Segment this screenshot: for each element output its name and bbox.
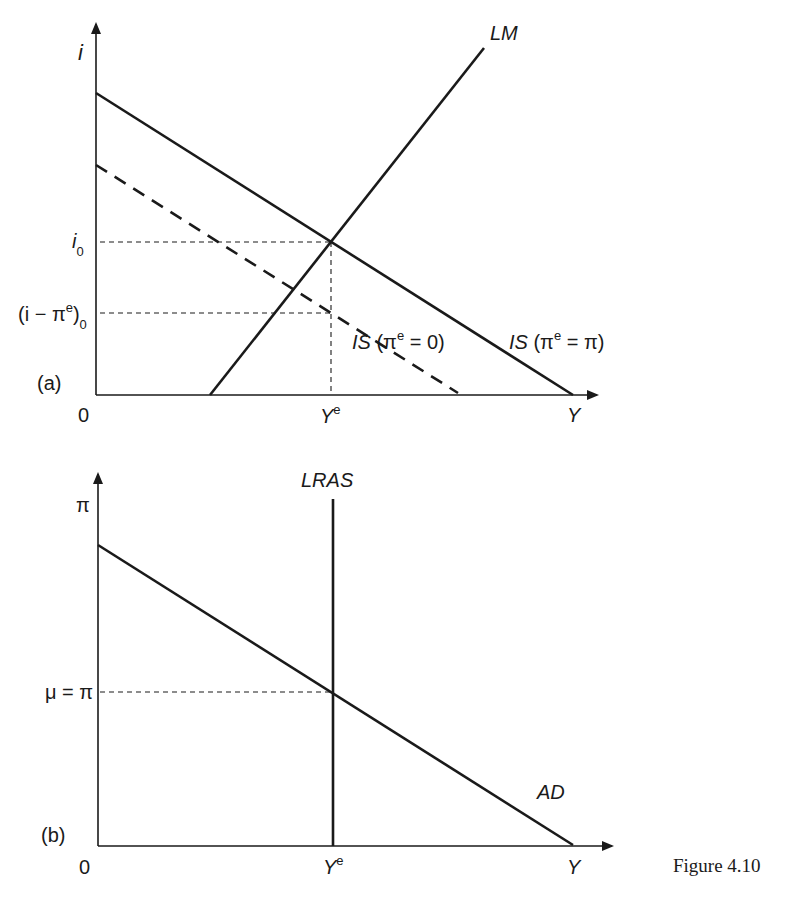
ye-sup-b: e: [336, 853, 343, 868]
i0-label: i0: [72, 231, 84, 255]
is-dashed-sup: e: [397, 328, 404, 343]
panel-b-ye-label: Ye: [323, 855, 344, 877]
panel-a-origin: 0: [78, 405, 89, 425]
is-solid-open: (π: [528, 331, 554, 353]
i0-sub: 0: [76, 244, 83, 259]
panel-a-ye-label: Ye: [320, 404, 341, 426]
ye-sup: e: [333, 402, 340, 417]
panel-a-tag: (a): [37, 373, 61, 393]
panel-b-origin: 0: [79, 857, 90, 877]
panel-a-y-axis-label: i: [78, 42, 83, 64]
lm-label: LM: [490, 23, 518, 43]
real-rate-open: (i − π: [18, 303, 66, 325]
panel-b-tag: (b): [41, 825, 65, 845]
is-solid-sup: e: [554, 328, 561, 343]
is-dashed-close: = 0): [404, 331, 445, 353]
mu-pi-label: μ = π: [45, 682, 93, 702]
is-solid-main: IS: [509, 331, 528, 353]
lras-label: LRAS: [301, 470, 353, 490]
real-rate-label: (i − πe)0: [18, 302, 87, 328]
is-curve-dashed: [96, 165, 458, 393]
ye-main: Y: [320, 405, 333, 427]
is-solid-label: IS (πe = π): [509, 330, 604, 352]
is-dashed-open: (π: [371, 331, 397, 353]
panel-a-x-axis-label: Y: [567, 405, 580, 425]
real-rate-close: ): [73, 303, 80, 325]
ad-label: AD: [537, 782, 565, 802]
is-curve-solid: [96, 93, 573, 395]
ye-main-b: Y: [323, 856, 336, 878]
figure-caption: Figure 4.10: [673, 855, 761, 877]
panel-b: [98, 474, 612, 846]
ad-curve: [98, 545, 573, 845]
panel-b-x-axis-label: Y: [567, 857, 580, 877]
real-rate-sub: 0: [80, 317, 87, 332]
real-rate-sup: e: [66, 300, 73, 315]
is-solid-close: = π): [561, 331, 604, 353]
is-dashed-label: IS (πe = 0): [352, 330, 445, 352]
panel-b-y-axis-label: π: [76, 495, 90, 515]
is-dashed-main: IS: [352, 331, 371, 353]
figure-canvas: [0, 0, 800, 899]
